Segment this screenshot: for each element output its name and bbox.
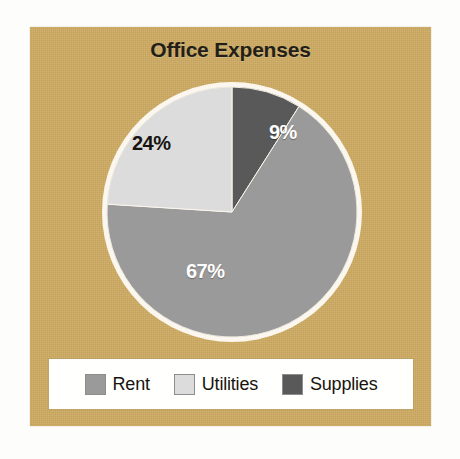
slice-label-supplies: 9%	[269, 121, 297, 144]
chart-figure: Office Expenses 9% 24% 67% Rent Utilitie…	[0, 0, 460, 459]
chart-legend: Rent Utilities Supplies	[49, 359, 413, 409]
legend-label-utilities: Utilities	[202, 374, 258, 395]
legend-label-rent: Rent	[113, 374, 150, 395]
legend-item-rent[interactable]: Rent	[85, 374, 150, 395]
legend-label-supplies: Supplies	[310, 374, 377, 395]
pie-chart-svg	[101, 81, 363, 343]
legend-item-utilities[interactable]: Utilities	[174, 374, 258, 395]
page-title: Office Expenses	[30, 38, 431, 62]
legend-swatch-rent	[85, 374, 106, 395]
pie-chart: 9% 24% 67%	[101, 81, 363, 343]
legend-swatch-supplies	[282, 374, 303, 395]
slice-label-utilities: 24%	[132, 132, 171, 155]
legend-item-supplies[interactable]: Supplies	[282, 374, 377, 395]
slice-label-rent: 67%	[186, 260, 225, 283]
legend-swatch-utilities	[174, 374, 195, 395]
